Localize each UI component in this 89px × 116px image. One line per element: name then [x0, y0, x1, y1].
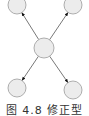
figure-caption: 图 4.8 修正型	[0, 104, 89, 116]
node-top-right	[64, 0, 82, 14]
nodes-group	[8, 0, 82, 99]
edge-center-to-top-right	[50, 12, 68, 39]
edge-center-to-bottom-right	[50, 56, 68, 82]
node-bottom-right	[64, 81, 82, 99]
node-top-left	[8, 0, 26, 14]
node-bottom-left	[8, 79, 26, 97]
star-diagram	[0, 0, 89, 116]
edge-center-to-bottom-left	[22, 56, 38, 80]
node-center	[34, 38, 54, 58]
edge-center-to-top-left	[22, 13, 39, 40]
